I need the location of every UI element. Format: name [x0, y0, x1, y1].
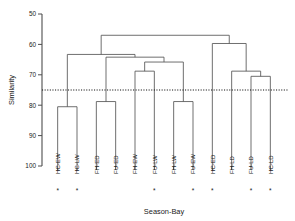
y-tick-label-60: 60: [29, 41, 37, 48]
leaf-star-marker-HC-EW: *: [56, 187, 59, 194]
leaf-label-HC-LW: HC-LW: [73, 154, 80, 174]
y-tick-label-50: 50: [29, 10, 37, 17]
leaf-label-FU-LD: FU-LD: [247, 155, 254, 174]
leaf-label-FU-EW: FU-EW: [189, 154, 196, 174]
leaf-label-HC-EW: HC-EW: [54, 153, 61, 174]
leaf-star-marker-HC-LW: *: [76, 187, 79, 194]
leaf-star-marker-FU-LD: *: [250, 187, 253, 194]
x-axis-title: Season-Bay: [144, 207, 185, 216]
leaf-label-FH-ED: FH-ED: [93, 155, 100, 174]
leaf-star-marker-HC-LD: *: [269, 187, 272, 194]
y-tick-label-100: 100: [25, 162, 36, 169]
y-tick-label-70: 70: [29, 71, 37, 78]
y-tick-label-80: 80: [29, 102, 37, 109]
dendrogram-plot: 5060708090100SimilarityHC-EW*HC-LW*FH-ED…: [0, 0, 295, 221]
dendro-link-n9: [232, 71, 261, 166]
dendro-link-n11: [101, 35, 229, 54]
dendro-link-n5: [145, 62, 184, 102]
y-tick-label-90: 90: [29, 132, 37, 139]
leaf-label-FU-LW: FU-LW: [151, 155, 158, 174]
leaf-label-FU-ED: FU-ED: [112, 155, 119, 174]
leaf-star-marker-FU-EW: *: [192, 187, 195, 194]
leaf-label-FH-EW: FH-EW: [131, 154, 138, 174]
leaf-star-marker-FU-LW: *: [153, 187, 156, 194]
dendro-link-n3: [135, 71, 154, 166]
leaf-label-HC-ED: HC-ED: [209, 154, 216, 174]
dendrogram-figure: 5060708090100SimilarityHC-EW*HC-LW*FH-ED…: [0, 0, 295, 221]
leaf-label-FH-LW: FH-LW: [170, 155, 177, 174]
leaf-label-HC-LD: HC-LD: [267, 155, 274, 174]
y-axis-title: Similarity: [7, 75, 16, 105]
dendro-link-n10: [212, 43, 246, 166]
dendro-link-n7: [67, 54, 135, 106]
leaf-label-FH-LD: FH-LD: [228, 155, 235, 174]
leaf-star-marker-HC-ED: *: [211, 187, 214, 194]
